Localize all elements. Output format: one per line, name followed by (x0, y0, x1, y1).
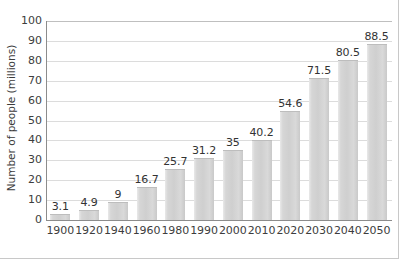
y-axis-tick-label: 90 (8, 35, 42, 46)
y-axis-tick-label: 100 (8, 15, 42, 26)
x-axis-tick-label: 2040 (334, 224, 363, 237)
bar[interactable] (79, 210, 99, 220)
x-axis-tick-label: 2030 (305, 224, 334, 237)
x-axis-tick-label: 1960 (132, 224, 161, 237)
bar-chart: Number of people (millions) 010203040506… (0, 0, 399, 259)
bar-value-label: 3.1 (52, 201, 70, 212)
bar-value-label: 40.2 (249, 127, 274, 138)
bar-slot: 4.9 (79, 21, 99, 220)
bar-value-label: 4.9 (80, 197, 98, 208)
x-axis-tick-label: 1900 (46, 224, 75, 237)
bar-slot: 80.5 (338, 21, 358, 220)
x-axis-tick-label: 1990 (190, 224, 219, 237)
x-axis-tick-label: 1980 (161, 224, 190, 237)
x-axis-tick-label: 1940 (104, 224, 133, 237)
bar-slot: 31.2 (194, 21, 214, 220)
bar-slot: 9 (108, 21, 128, 220)
bar[interactable] (108, 202, 128, 220)
y-axis-tick-label: 10 (8, 194, 42, 205)
bar[interactable] (50, 214, 70, 220)
bar-slot: 35 (223, 21, 243, 220)
y-axis-tick-label: 80 (8, 55, 42, 66)
bar[interactable] (367, 44, 387, 220)
bar-value-label: 88.5 (364, 31, 389, 42)
y-axis-tick-label: 0 (8, 214, 42, 225)
bar[interactable] (194, 158, 214, 220)
bar-value-label: 31.2 (192, 145, 217, 156)
bar[interactable] (338, 60, 358, 220)
bar-value-label: 35 (226, 137, 240, 148)
bar[interactable] (252, 140, 272, 220)
bar-value-label: 16.7 (134, 174, 159, 185)
y-axis-tick-labels: 0102030405060708090100 (0, 0, 42, 259)
bar[interactable] (165, 169, 185, 220)
y-axis-tick-label: 30 (8, 154, 42, 165)
bar-slot: 16.7 (137, 21, 157, 220)
y-axis-tick-label: 50 (8, 115, 42, 126)
bar-slot: 71.5 (309, 21, 329, 220)
y-axis-tick-label: 60 (8, 95, 42, 106)
bar[interactable] (223, 150, 243, 220)
bar-value-label: 71.5 (307, 65, 332, 76)
y-axis-tick-label: 70 (8, 75, 42, 86)
x-axis-tick-label: 2020 (276, 224, 305, 237)
bar-series: 3.14.9916.725.731.23540.254.671.580.588.… (46, 21, 391, 220)
bar-value-label: 25.7 (163, 156, 188, 167)
bar-slot: 88.5 (367, 21, 387, 220)
x-axis-tick-label: 1920 (75, 224, 104, 237)
bar-slot: 25.7 (165, 21, 185, 220)
y-axis-tick-label: 40 (8, 134, 42, 145)
bar[interactable] (280, 111, 300, 220)
bar-value-label: 9 (114, 189, 121, 200)
x-axis-tick-label: 2050 (362, 224, 391, 237)
bar-slot: 54.6 (280, 21, 300, 220)
bar[interactable] (309, 78, 329, 220)
x-axis-tick-label: 2010 (247, 224, 276, 237)
bar-value-label: 54.6 (278, 98, 303, 109)
bar-slot: 3.1 (50, 21, 70, 220)
x-axis-tick-label: 2000 (219, 224, 248, 237)
y-axis-tick-label: 20 (8, 174, 42, 185)
x-axis-tick-labels: 1900192019401960198019902000201020202030… (46, 224, 391, 240)
bar[interactable] (137, 187, 157, 220)
bar-slot: 40.2 (252, 21, 272, 220)
bar-value-label: 80.5 (336, 47, 361, 58)
